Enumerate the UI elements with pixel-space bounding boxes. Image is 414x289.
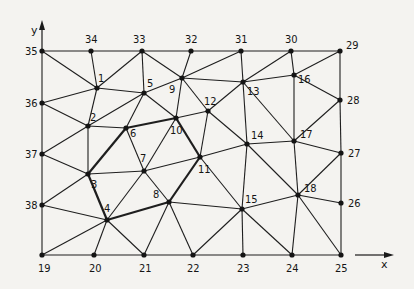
- node-label-26: 26: [348, 197, 361, 210]
- y-axis-arrowhead: [39, 20, 45, 30]
- node-19: [39, 252, 44, 257]
- mesh-edge-33-9: [142, 51, 182, 78]
- node-3: [85, 171, 90, 176]
- mesh-edge-12-14: [208, 111, 247, 144]
- boundary-edge-8-4: [107, 202, 169, 220]
- mesh-edge-13-16: [243, 75, 294, 82]
- node-label-15: 15: [245, 193, 258, 206]
- node-8: [166, 199, 171, 204]
- node-5: [141, 90, 146, 95]
- node-label-4: 4: [104, 202, 110, 215]
- node-10: [173, 115, 178, 120]
- node-18: [295, 192, 300, 197]
- mesh-edge-29-16: [294, 51, 340, 75]
- mesh-edge-18-24: [292, 195, 298, 255]
- node-label-14: 14: [251, 129, 264, 142]
- node-30: [288, 48, 293, 53]
- y-axis-label: y: [31, 24, 38, 37]
- node-label-37: 37: [25, 148, 38, 161]
- node-15: [239, 206, 244, 211]
- mesh-edge-35-1: [42, 51, 97, 88]
- mesh-edge-4-7: [107, 171, 144, 220]
- node-label-24: 24: [286, 262, 299, 275]
- node-11: [197, 154, 202, 159]
- mesh-edge-20-4: [94, 220, 107, 255]
- node-label-21: 21: [139, 262, 152, 275]
- mesh-edge-17-18: [294, 141, 298, 195]
- node-label-35: 35: [25, 45, 38, 58]
- mesh-edge-8-21: [144, 202, 169, 255]
- node-label-34: 34: [85, 33, 98, 46]
- mesh-edge-11-14: [200, 144, 247, 157]
- mesh-edge-8-15: [169, 202, 242, 209]
- mesh-edge-33-5: [142, 51, 144, 93]
- node-labels: 1234567891011121314151617181920212223242…: [25, 33, 361, 275]
- mesh-edge-2-6: [88, 126, 126, 128]
- node-label-8: 8: [153, 188, 159, 201]
- node-label-16: 16: [298, 73, 311, 86]
- mesh-edge-1-36: [42, 88, 97, 103]
- node-37: [39, 151, 44, 156]
- mesh-edge-34-1: [91, 51, 97, 88]
- mesh-edge-17-27: [294, 141, 341, 153]
- node-27: [338, 150, 343, 155]
- node-label-27: 27: [348, 147, 361, 160]
- node-7: [141, 168, 146, 173]
- node-12: [205, 108, 210, 113]
- mesh-edge-3-7: [88, 171, 144, 174]
- mesh-edge-38-4: [42, 205, 107, 220]
- node-label-22: 22: [187, 262, 200, 275]
- node-label-11: 11: [198, 163, 211, 176]
- node-label-36: 36: [25, 97, 38, 110]
- node-34: [88, 48, 93, 53]
- mesh-edge-28-27: [340, 100, 341, 153]
- mesh-edge-3-38: [42, 174, 88, 205]
- node-label-13: 13: [247, 85, 260, 98]
- node-38: [39, 202, 44, 207]
- mesh-edge-1-5: [97, 88, 144, 93]
- mesh-edge-30-16: [291, 51, 294, 75]
- mesh-edge-15-23: [242, 209, 243, 255]
- mesh-edge-21-4: [107, 220, 144, 255]
- node-label-28: 28: [347, 94, 360, 107]
- mesh-edge-31-9: [182, 51, 241, 78]
- node-32: [188, 48, 193, 53]
- node-29: [337, 48, 342, 53]
- mesh-edge-15-24: [242, 209, 292, 255]
- node-13: [240, 79, 245, 84]
- mesh-edge-12-11: [200, 111, 208, 157]
- node-9: [179, 75, 184, 80]
- mesh-edge-8-22: [169, 202, 193, 255]
- mesh-diagram: y x 123456789101112131415161718192021222…: [0, 0, 414, 289]
- node-label-38: 38: [25, 199, 38, 212]
- mesh-edge-19-4: [42, 220, 107, 255]
- node-17: [291, 138, 296, 143]
- node-1: [94, 85, 99, 90]
- node-35: [39, 48, 44, 53]
- mesh-edge-31-13: [241, 51, 243, 82]
- node-22: [190, 252, 195, 257]
- node-label-12: 12: [204, 95, 217, 108]
- mesh-edge-36-2: [42, 103, 88, 126]
- node-21: [141, 252, 146, 257]
- mesh-edge-18-26: [298, 195, 341, 203]
- node-label-23: 23: [237, 262, 250, 275]
- mesh-edge-5-10: [144, 93, 176, 118]
- mesh-edge-30-13: [243, 51, 291, 82]
- node-label-2: 2: [90, 111, 96, 124]
- mesh-edge-14-18: [247, 144, 298, 195]
- node-36: [39, 100, 44, 105]
- mesh-edges: [42, 51, 341, 255]
- node-label-3: 3: [91, 178, 97, 191]
- mesh-edge-9-13: [182, 78, 243, 82]
- node-28: [337, 97, 342, 102]
- node-24: [289, 252, 294, 257]
- node-label-9: 9: [169, 83, 175, 96]
- node-label-25: 25: [335, 262, 348, 275]
- node-label-5: 5: [147, 77, 153, 90]
- mesh-edge-10-12: [176, 111, 208, 118]
- node-label-33: 33: [133, 33, 146, 46]
- node-14: [244, 141, 249, 146]
- node-26: [338, 200, 343, 205]
- mesh-edge-37-2: [42, 126, 88, 154]
